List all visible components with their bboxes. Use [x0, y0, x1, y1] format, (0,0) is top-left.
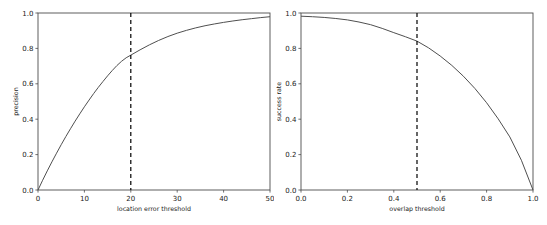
chart-panel-success-rate: 0.00.20.40.60.81.00.00.20.40.60.81.0over…: [273, 0, 547, 225]
y-tick-label: 1.0: [22, 10, 33, 18]
y-tick-label: 0.0: [285, 187, 296, 195]
x-tick-label: 40: [219, 195, 228, 203]
x-tick-label: 0: [36, 195, 40, 203]
y-tick-label: 0.6: [22, 80, 34, 88]
precision-plot: 010203040500.00.20.40.60.81.0location er…: [0, 0, 274, 225]
y-tick-label: 0.2: [22, 151, 33, 159]
x-tick-label: 0.0: [295, 195, 306, 203]
y-tick-label: 1.0: [285, 10, 296, 18]
x-tick-label: 10: [80, 195, 89, 203]
y-tick-label: 0.8: [285, 45, 296, 53]
data-curve: [38, 17, 270, 190]
y-tick-label: 0.0: [22, 187, 33, 195]
x-tick-label: 0.8: [481, 195, 492, 203]
y-axis-label: precision: [12, 87, 20, 115]
x-tick-label: 1.0: [527, 195, 538, 203]
x-tick-label: 20: [126, 195, 135, 203]
x-tick-label: 0.6: [435, 195, 447, 203]
y-axis-label: success rate: [275, 82, 282, 122]
y-tick-label: 0.4: [285, 116, 297, 124]
y-tick-label: 0.2: [285, 151, 296, 159]
x-axis-label: location error threshold: [117, 205, 191, 212]
y-tick-label: 0.8: [22, 45, 33, 53]
y-tick-label: 0.6: [285, 80, 297, 88]
x-axis-label: overlap threshold: [389, 205, 444, 213]
x-tick-label: 0.2: [342, 195, 353, 203]
y-tick-label: 0.4: [22, 116, 34, 124]
x-tick-label: 30: [173, 195, 182, 203]
success-rate-plot: 0.00.20.40.60.81.00.00.20.40.60.81.0over…: [273, 0, 547, 225]
chart-panel-precision: 010203040500.00.20.40.60.81.0location er…: [0, 0, 274, 225]
figure-container: 010203040500.00.20.40.60.81.0location er…: [0, 0, 547, 225]
x-tick-label: 0.4: [388, 195, 400, 203]
